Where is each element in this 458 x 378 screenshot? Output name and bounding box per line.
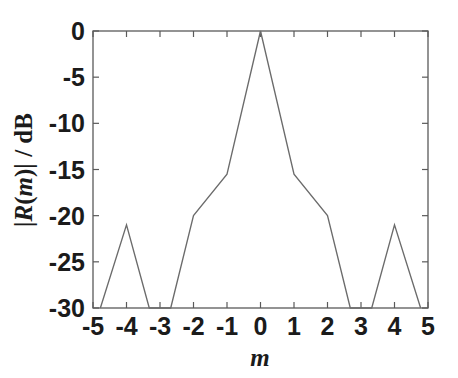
x-axis-tick-labels: -5-4-3-2-1012345: [82, 312, 435, 340]
x-tick-label: -3: [149, 312, 171, 340]
y-tick-label: -15: [49, 156, 85, 184]
x-tick-label: -4: [115, 312, 137, 340]
x-tick-label: -2: [182, 312, 204, 340]
x-tick-label: -1: [216, 312, 238, 340]
y-tick-label: -30: [49, 294, 85, 322]
axes-frame: [93, 31, 428, 308]
chart-plot-area: -5-4-3-2-1012345 0-5-10-15-20-25-30 m |R…: [0, 0, 458, 378]
y-tick-label: -10: [49, 109, 85, 137]
x-axis-ticks: [93, 31, 428, 308]
x-tick-label: 1: [287, 312, 301, 340]
plot-box-border: [93, 31, 428, 308]
data-series-line: [100, 31, 420, 308]
x-axis-title: m: [250, 344, 269, 371]
y-tick-label: 0: [71, 17, 85, 45]
y-axis-title: |R(m)| / dB: [10, 113, 38, 227]
y-tick-label: -25: [49, 248, 85, 276]
x-tick-label: 2: [321, 312, 335, 340]
x-tick-label: 0: [254, 312, 268, 340]
y-axis-tick-labels: 0-5-10-15-20-25-30: [49, 17, 85, 322]
chart-figure: -5-4-3-2-1012345 0-5-10-15-20-25-30 m |R…: [0, 0, 458, 378]
y-axis-ticks: [93, 31, 428, 308]
y-tick-label: -5: [63, 63, 85, 91]
x-tick-label: -5: [82, 312, 104, 340]
x-tick-label: 3: [354, 312, 368, 340]
y-tick-label: -20: [49, 202, 85, 230]
x-tick-label: 4: [388, 312, 402, 340]
data-series-layer: [100, 31, 420, 308]
x-tick-label: 5: [421, 312, 435, 340]
